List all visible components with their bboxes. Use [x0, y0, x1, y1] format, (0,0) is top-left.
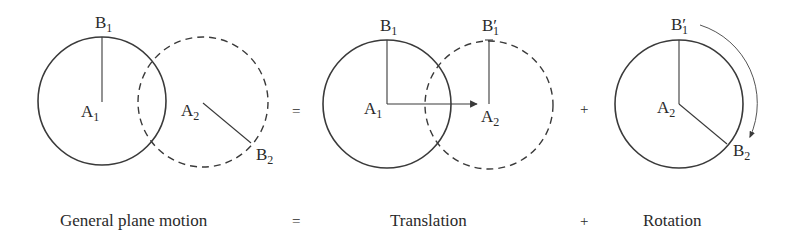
body-final-position-circle	[138, 37, 268, 167]
label-b1-prime: B′1	[671, 15, 688, 37]
general-plane-motion-diagram: B1 A1 A2 B2 = B1 B′1 A1 A2 +	[0, 0, 790, 247]
caption-rotation: Rotation	[643, 211, 702, 230]
label-b2: B2	[733, 141, 750, 163]
label-a1: A1	[364, 99, 382, 121]
plus-sign: +	[580, 101, 588, 117]
label-a2: A2	[481, 107, 499, 129]
label-a2: A2	[181, 101, 199, 123]
panel-rotation: B′1 A2 B2	[615, 15, 757, 168]
rotation-arrow	[700, 25, 757, 137]
panel-general-plane-motion: B1 A1 A2 B2	[38, 13, 273, 167]
equals-sign: =	[292, 103, 300, 119]
label-b2: B2	[256, 145, 273, 167]
label-b1-prime: B′1	[482, 16, 499, 38]
label-b1: B1	[95, 13, 112, 35]
panel-translation: B1 B′1 A1 A2	[323, 16, 553, 169]
caption-equals-sign: =	[292, 213, 300, 229]
label-a2: A2	[657, 98, 675, 120]
label-a1: A1	[81, 102, 99, 124]
caption-plus-sign: +	[580, 213, 588, 229]
segment-a2-b2	[203, 103, 251, 143]
label-b1: B1	[380, 16, 397, 38]
segment-a2-b2	[679, 104, 727, 144]
caption-translation: Translation	[390, 211, 467, 230]
caption-general-plane-motion: General plane motion	[60, 211, 208, 230]
